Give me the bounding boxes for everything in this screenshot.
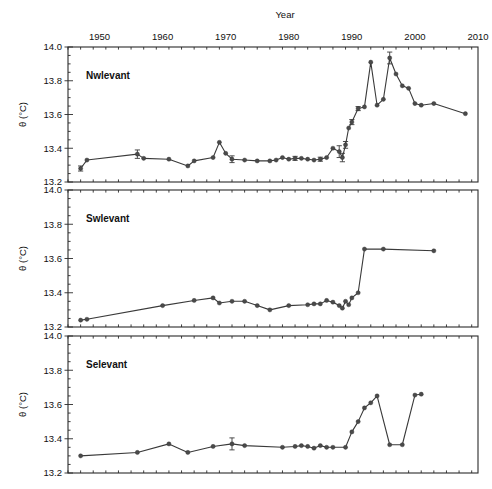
panel-label: Selevant	[86, 359, 128, 370]
data-point	[356, 106, 360, 110]
data-point	[280, 155, 284, 159]
data-point	[350, 120, 354, 124]
y-tick-label: 14.0	[44, 184, 63, 195]
y-tick-label: 13.6	[44, 253, 63, 264]
data-point	[340, 155, 344, 159]
data-point	[325, 445, 329, 449]
data-point	[211, 155, 215, 159]
data-point	[400, 84, 404, 88]
data-point	[135, 152, 139, 156]
data-point	[211, 444, 215, 448]
data-point	[268, 159, 272, 163]
data-point	[343, 299, 347, 303]
data-point	[293, 156, 297, 160]
data-point	[432, 101, 436, 105]
data-point	[299, 444, 303, 448]
panel-label: Nwlevant	[86, 70, 131, 81]
y-tick-label: 13.8	[44, 365, 63, 376]
data-point	[85, 158, 89, 162]
x-tick-label: 1950	[89, 31, 110, 42]
data-point	[255, 303, 259, 307]
data-point	[356, 291, 360, 295]
data-point	[347, 126, 351, 130]
data-point	[343, 445, 347, 449]
series-line	[81, 249, 434, 320]
panel-swlevant: 13.213.413.613.814.0θ (°C)Swlevant	[17, 184, 478, 332]
y-tick-label: 13.6	[44, 399, 63, 410]
data-point	[312, 302, 316, 306]
data-point	[186, 164, 190, 168]
data-point	[161, 303, 165, 307]
data-point	[375, 394, 379, 398]
data-point	[85, 317, 89, 321]
data-point	[325, 155, 329, 159]
data-point	[167, 157, 171, 161]
data-point	[280, 445, 284, 449]
data-point	[293, 444, 297, 448]
data-point	[318, 157, 322, 161]
x-tick-label: 2010	[467, 31, 488, 42]
figure-container: Year 13.213.413.613.814.0195019601970198…	[0, 0, 492, 489]
data-point	[192, 159, 196, 163]
data-point	[381, 97, 385, 101]
data-point	[287, 303, 291, 307]
y-tick-label: 13.4	[44, 143, 63, 154]
data-point	[394, 72, 398, 76]
data-point	[350, 296, 354, 300]
data-point	[230, 442, 234, 446]
data-point	[211, 296, 215, 300]
series-line	[81, 58, 466, 169]
data-point	[362, 105, 366, 109]
y-tick-label: 14.0	[44, 330, 63, 341]
x-tick-label: 1970	[215, 31, 236, 42]
data-point	[369, 60, 373, 64]
data-point	[356, 420, 360, 424]
data-point	[347, 303, 351, 307]
data-point	[362, 406, 366, 410]
data-point	[274, 158, 278, 162]
panel-label: Swlevant	[86, 213, 130, 224]
y-tick-label: 13.2	[44, 467, 63, 478]
data-point	[306, 444, 310, 448]
data-point	[463, 112, 467, 116]
data-point	[318, 302, 322, 306]
x-axis-title: Year	[275, 9, 294, 20]
data-point	[135, 450, 139, 454]
data-point	[388, 443, 392, 447]
y-tick-label: 13.4	[44, 287, 63, 298]
x-tick-label: 2000	[404, 31, 425, 42]
data-point	[331, 300, 335, 304]
data-point	[167, 442, 171, 446]
data-point	[413, 101, 417, 105]
y-tick-label: 13.6	[44, 109, 63, 120]
data-point	[299, 156, 303, 160]
x-tick-label: 1990	[341, 31, 362, 42]
y-axis-label: θ (°C)	[17, 246, 28, 271]
data-point	[419, 392, 423, 396]
data-point	[331, 445, 335, 449]
data-point	[243, 444, 247, 448]
data-point	[318, 444, 322, 448]
data-point	[217, 301, 221, 305]
x-tick-label: 1960	[152, 31, 173, 42]
data-point	[224, 151, 228, 155]
data-point	[243, 299, 247, 303]
y-axis-label: θ (°C)	[17, 102, 28, 127]
data-point	[362, 247, 366, 251]
data-point	[243, 158, 247, 162]
data-point	[325, 298, 329, 302]
data-point	[312, 158, 316, 162]
data-point	[306, 157, 310, 161]
data-point	[287, 157, 291, 161]
data-point	[413, 393, 417, 397]
data-point	[343, 143, 347, 147]
data-point	[337, 150, 341, 154]
panel-nwlevant: 13.213.413.613.814.019501960197019801990…	[17, 31, 489, 187]
data-point	[79, 454, 83, 458]
data-point	[79, 318, 83, 322]
data-point	[142, 156, 146, 160]
data-point	[79, 166, 83, 170]
y-axis-label: θ (°C)	[17, 392, 28, 417]
data-point	[388, 56, 392, 60]
data-point	[186, 450, 190, 454]
